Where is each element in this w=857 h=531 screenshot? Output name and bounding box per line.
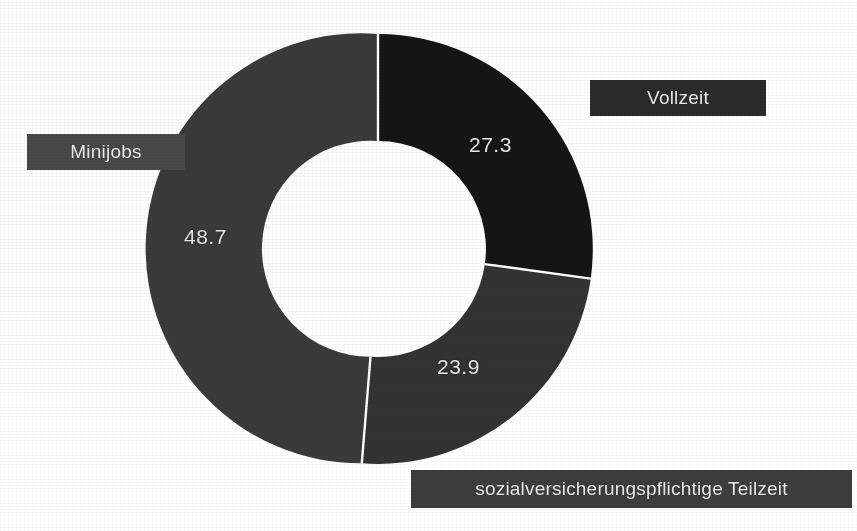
callout-label-vollzeit-text: Vollzeit bbox=[647, 87, 709, 109]
callout-label-vollzeit[interactable]: Vollzeit bbox=[590, 80, 766, 116]
slice-value-minijobs: 48.7 bbox=[184, 225, 227, 249]
donut-chart-figure: 27.3 23.9 48.7 Vollzeit Minijobs sozialv… bbox=[0, 0, 857, 531]
callout-label-teilzeit[interactable]: sozialversicherungspflichtige Teilzeit bbox=[411, 470, 852, 508]
callout-label-teilzeit-text: sozialversicherungspflichtige Teilzeit bbox=[475, 478, 787, 500]
slice-value-teilzeit: 23.9 bbox=[437, 355, 480, 379]
slice-value-vollzeit: 27.3 bbox=[469, 133, 512, 157]
donut-slice-minijobs[interactable] bbox=[146, 33, 378, 463]
callout-label-minijobs[interactable]: Minijobs bbox=[27, 134, 185, 170]
callout-label-minijobs-text: Minijobs bbox=[70, 141, 141, 163]
